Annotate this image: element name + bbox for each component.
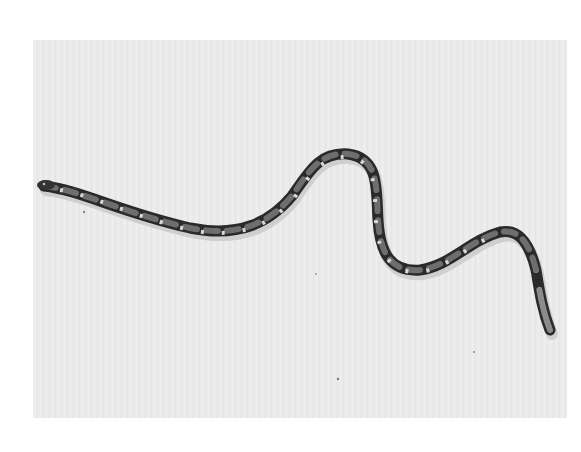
snake-figure	[0, 0, 581, 452]
speck	[473, 351, 475, 353]
speck	[337, 378, 339, 380]
speck	[315, 273, 317, 275]
snake-photograph	[33, 40, 567, 418]
speck	[83, 211, 85, 213]
snake-eye	[43, 183, 46, 186]
snake-head	[37, 180, 55, 190]
photo-background	[33, 40, 567, 418]
